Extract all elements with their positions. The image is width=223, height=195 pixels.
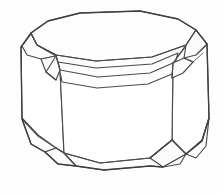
crystal-diagram [0, 0, 223, 195]
crystal-figure-root: Octagonal Emerald-Cut Crystal Line drawi… [0, 0, 223, 195]
